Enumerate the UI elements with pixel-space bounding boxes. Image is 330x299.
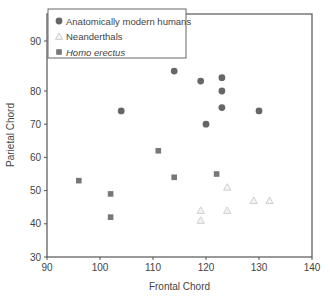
x-tick-label: 130 — [251, 262, 268, 273]
y-axis-title: Parietal Chord — [5, 103, 16, 167]
circle-data-point — [171, 68, 178, 75]
x-axis: 90100110120130140 — [41, 257, 320, 273]
legend-label: Neanderthals — [66, 31, 123, 42]
circle-data-point — [203, 121, 210, 128]
y-tick-label: 40 — [30, 218, 42, 229]
data-points — [76, 68, 273, 224]
square-data-point — [76, 178, 82, 184]
triangle-data-point — [197, 207, 204, 213]
y-tick-label: 90 — [30, 36, 42, 47]
circle-data-point — [197, 78, 204, 85]
triangle-data-point — [266, 197, 273, 203]
y-tick-label: 70 — [30, 119, 42, 130]
y-axis: 30405060708090 — [30, 36, 47, 263]
circle-data-point — [256, 108, 263, 115]
square-data-point — [171, 175, 177, 181]
square-data-point — [156, 148, 162, 154]
triangle-data-point — [224, 207, 231, 213]
scatter-chart: 90100110120130140 30405060708090 Anatomi… — [0, 0, 330, 299]
x-tick-label: 110 — [145, 262, 161, 273]
circle-data-point — [219, 88, 226, 95]
triangle-data-point — [197, 217, 204, 223]
x-tick-label: 100 — [92, 262, 109, 273]
y-tick-label: 80 — [30, 86, 42, 97]
legend: Anatomically modern humansNeanderthalsHo… — [48, 9, 191, 58]
circle-data-point — [219, 74, 226, 81]
square-legend-icon — [56, 49, 62, 55]
x-tick-label: 120 — [198, 262, 215, 273]
circle-legend-icon — [56, 18, 63, 25]
legend-label: Anatomically modern humans — [66, 16, 191, 27]
square-data-point — [214, 171, 220, 177]
y-tick-label: 30 — [30, 252, 42, 263]
legend-label: Homo erectus — [66, 47, 125, 58]
x-tick-label: 140 — [304, 262, 321, 273]
triangle-data-point — [224, 184, 231, 190]
circle-data-point — [219, 104, 226, 111]
circle-data-point — [118, 108, 125, 115]
x-tick-label: 90 — [41, 262, 53, 273]
triangle-data-point — [250, 197, 257, 203]
square-data-point — [108, 214, 114, 220]
x-axis-title: Frontal Chord — [149, 281, 210, 292]
y-tick-label: 50 — [30, 185, 42, 196]
y-tick-label: 60 — [30, 152, 42, 163]
square-data-point — [108, 191, 114, 197]
